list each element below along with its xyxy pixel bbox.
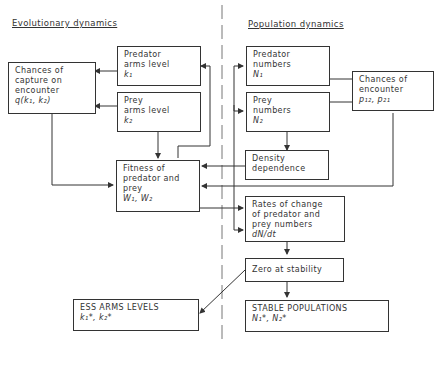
prey-arms-level-box: Prey arms level k₂ — [117, 92, 201, 132]
stable-populations-box: STABLE POPULATIONS N₁*, N₂* — [245, 300, 389, 332]
ess-arms-levels-box: ESS ARMS LEVELS k₁*, k₂* — [73, 299, 199, 331]
fitness-box: Fitness of predator and prey W₁, W₂ — [116, 160, 200, 212]
predator-numbers-box: Predator numbers N₁ — [246, 46, 330, 86]
zero-at-stability-box: Zero at stability — [245, 258, 344, 282]
chances-of-capture-box: Chances of capture on encounter q(k₁, k₂… — [8, 62, 96, 114]
predator-arms-level-box: Predator arms level k₁ — [117, 46, 201, 86]
rates-of-change-box: Rates of change of predator and prey num… — [245, 196, 345, 242]
density-dependence-box: Density dependence — [245, 150, 329, 180]
prey-numbers-box: Prey numbers N₂ — [246, 92, 330, 132]
chances-of-encounter-box: Chances of encounter p₁₂, p₂₁ — [352, 71, 434, 111]
